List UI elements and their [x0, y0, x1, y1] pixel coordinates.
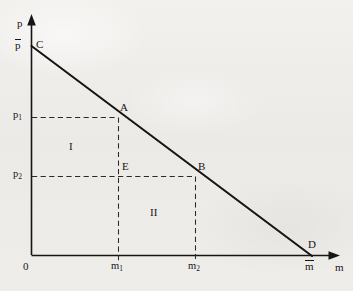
- p-bar-overbar-text: p: [15, 40, 21, 51]
- p2-subscript-text: 2: [18, 172, 22, 181]
- point-label-e: E: [122, 161, 129, 172]
- axes-group: [27, 14, 340, 260]
- point-label-a: A: [120, 102, 128, 113]
- demand-curve-line: [32, 46, 313, 256]
- point-label-b: B: [198, 161, 205, 172]
- x-axis-arrowhead: [329, 251, 341, 260]
- m2-subscript-text: 2: [196, 264, 200, 273]
- guide-lines-group: [32, 118, 196, 263]
- point-label-d: D: [308, 239, 316, 250]
- p1-subscript-text: 1: [18, 113, 22, 122]
- y-tick-p-bar: p: [15, 40, 21, 51]
- m1-subscript-text: 1: [119, 264, 123, 273]
- x-tick-m2: m2: [188, 261, 200, 272]
- origin-label: 0: [23, 261, 29, 272]
- x-tick-m-bar: m: [305, 261, 314, 272]
- y-tick-p1: p1: [13, 110, 22, 121]
- x-tick-m1: m1: [111, 261, 123, 272]
- point-label-c: C: [36, 39, 43, 50]
- region-label-two: II: [150, 207, 157, 218]
- y-axis-label: p: [17, 18, 23, 29]
- y-tick-p2: p2: [13, 169, 22, 180]
- m-bar-overbar-text: m: [305, 261, 314, 272]
- m1-base-text: m: [111, 260, 119, 271]
- demand-diagram-svg: [0, 0, 353, 291]
- m2-base-text: m: [188, 260, 196, 271]
- x-axis-label: m: [335, 262, 344, 273]
- region-label-one: I: [69, 141, 73, 152]
- y-axis-arrowhead: [27, 14, 36, 26]
- figure-screenshot: p m 0 p p1 p2 m1 m2 m C A E B D I II: [0, 0, 353, 291]
